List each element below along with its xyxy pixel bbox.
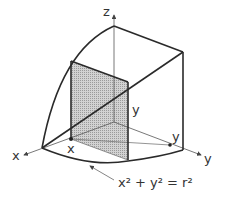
cross-section-square — [71, 61, 128, 160]
x-axis-label: x — [12, 148, 20, 163]
equation-pointer-arrow — [90, 166, 114, 180]
z-axis-label: z — [103, 4, 110, 19]
top-edge-back — [114, 26, 183, 52]
diagram-canvas: z x y x y y x² + y² = r² — [0, 0, 228, 199]
square-height-label: y — [132, 102, 140, 117]
point-y-label: y — [172, 129, 180, 144]
point-x-label: x — [67, 141, 75, 156]
y-axis-label: y — [204, 151, 212, 166]
circle-equation: x² + y² = r² — [118, 175, 193, 190]
